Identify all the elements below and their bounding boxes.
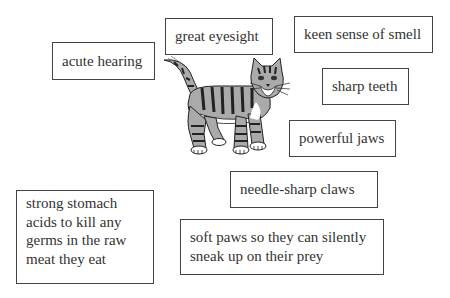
label-line: germs in the raw [26,231,126,250]
label-text: keen sense of smell [304,25,421,44]
label-text: powerful jaws [299,129,384,148]
label-keen-sense-of-smell: keen sense of smell [294,16,433,53]
label-text: acute hearing [62,52,142,71]
label-soft-paws: soft paws so they can silently sneak up … [180,219,384,275]
label-strong-stomach: strong stomach acids to kill any germs i… [16,190,154,284]
label-needle-sharp-claws: needle-sharp claws [230,171,378,208]
label-sharp-teeth: sharp teeth [322,68,409,105]
cat-illustration-icon [160,56,292,160]
label-line: meat they eat [26,250,126,269]
label-line: strong stomach [26,194,126,213]
label-powerful-jaws: powerful jaws [289,120,396,157]
label-line: acids to kill any [26,213,126,232]
label-great-eyesight: great eyesight [165,18,273,55]
label-line: sneak up on their prey [190,247,366,266]
label-acute-hearing: acute hearing [52,42,155,80]
label-text: great eyesight [175,27,259,46]
label-text: needle-sharp claws [240,180,355,199]
label-text: sharp teeth [332,77,397,96]
label-line: soft paws so they can silently [190,228,366,247]
